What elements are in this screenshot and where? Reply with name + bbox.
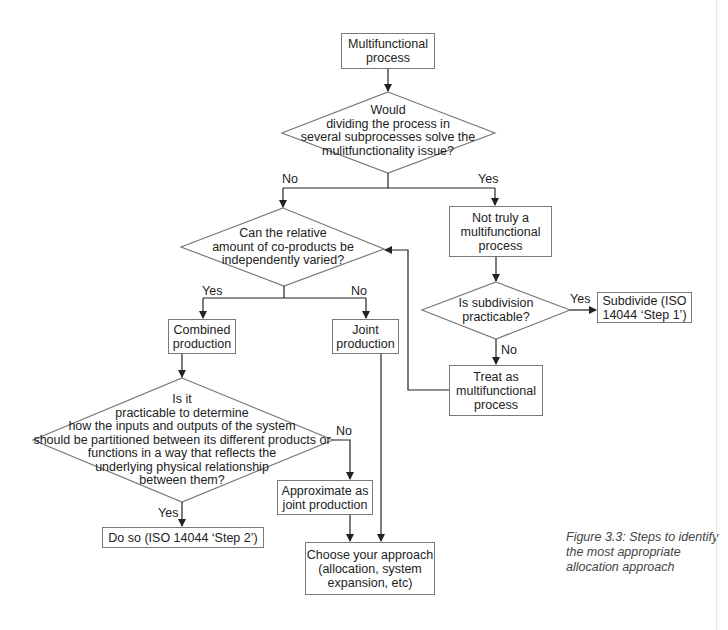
- start-line-2: process: [366, 51, 410, 65]
- q4-line-5: functions in a way that reflects the: [33, 447, 330, 461]
- choose-line-2: (allocation, system: [318, 562, 422, 576]
- choose-box: Choose your approach (allocation, system…: [305, 542, 435, 595]
- start-box: Multifunctional process: [341, 33, 435, 69]
- choose-line-1: Choose your approach: [307, 548, 433, 562]
- page-edge-rule: [716, 0, 717, 630]
- not-truly-box: Not truly a multifunctional process: [449, 206, 552, 257]
- q1-line-4: mulitfunctionality issue?: [301, 145, 475, 159]
- q4-line-1: Is it: [33, 393, 330, 407]
- q2-yes-label: Yes: [202, 284, 222, 298]
- combined-line-2: production: [173, 337, 231, 351]
- q1-no-label: No: [282, 172, 298, 186]
- not-truly-line-2: multifunctional: [461, 225, 541, 239]
- q3-text: Is subdivision practicable?: [458, 297, 533, 324]
- q3-yes-label: Yes: [570, 292, 590, 306]
- q2-line-2: amount of co-products be: [212, 241, 354, 255]
- subdivide-box: Subdivide (ISO 14044 ‘Step 1’): [597, 292, 692, 323]
- caption-line-1: Figure 3.3: Steps to identify: [566, 530, 718, 545]
- q1-line-1: Would: [301, 104, 475, 118]
- choose-line-3: expansion, etc): [328, 576, 413, 590]
- q2-line-1: Can the relative: [212, 227, 354, 241]
- q3-no-label: No: [501, 343, 517, 357]
- q4-line-7: between them?: [33, 474, 330, 488]
- figure-caption: Figure 3.3: Steps to identify the most a…: [566, 530, 718, 575]
- do-so-box: Do so (ISO 14044 ‘Step 2’): [102, 527, 264, 548]
- do-so-label: Do so (ISO 14044 ‘Step 2’): [108, 531, 257, 545]
- treat-line-3: process: [474, 398, 518, 412]
- joint-box: Joint production: [332, 319, 399, 354]
- q2-line-3: independently varied?: [212, 254, 354, 268]
- q1-text: Would dividing the process in several su…: [301, 104, 475, 158]
- q4-line-4: should be partitioned between its differ…: [33, 434, 330, 448]
- treat-box: Treat as multifunctional process: [449, 365, 543, 416]
- q1-line-3: several subprocesses solve the: [301, 131, 475, 145]
- q4-no-label: No: [336, 424, 352, 438]
- subdivide-line-2: 14044 ‘Step 1’): [602, 308, 686, 322]
- q2-text: Can the relative amount of co-products b…: [212, 227, 354, 268]
- not-truly-line-3: process: [479, 239, 523, 253]
- combined-line-1: Combined: [174, 323, 231, 337]
- q4-text: Is it practicable to determine how the i…: [33, 393, 330, 488]
- joint-line-1: Joint: [352, 323, 378, 337]
- start-line-1: Multifunctional: [348, 37, 428, 51]
- q4-line-6: underlying physical relationship: [33, 461, 330, 475]
- q3-line-2: practicable?: [458, 311, 533, 325]
- joint-line-2: production: [336, 337, 394, 351]
- approximate-line-2: joint production: [283, 498, 368, 512]
- not-truly-line-1: Not truly a: [472, 211, 529, 225]
- q1-line-2: dividing the process in: [301, 118, 475, 132]
- q4-yes-label: Yes: [158, 506, 178, 520]
- caption-line-2: the most appropriate: [566, 545, 718, 560]
- treat-line-1: Treat as: [473, 370, 518, 384]
- caption-line-3: allocation approach: [566, 560, 718, 575]
- treat-line-2: multifunctional: [456, 384, 536, 398]
- q2-no-label: No: [351, 284, 367, 298]
- q4-line-2: practicable to determine: [33, 407, 330, 421]
- subdivide-line-1: Subdivide (ISO: [602, 294, 686, 308]
- q1-yes-label: Yes: [478, 172, 498, 186]
- combined-box: Combined production: [168, 319, 236, 354]
- q4-line-3: how the inputs and outputs of the system: [33, 420, 330, 434]
- q3-line-1: Is subdivision: [458, 297, 533, 311]
